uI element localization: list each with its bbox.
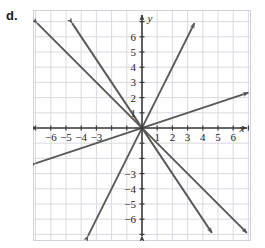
y-tick-label: −6 [124, 213, 136, 225]
x-tick-label: −3 [91, 131, 103, 143]
x-axis-label: x [239, 122, 245, 134]
x-tick-label: −4 [75, 131, 87, 143]
y-tick-label: −5 [124, 198, 136, 210]
y-tick-label: 5 [131, 46, 137, 58]
x-tick-label: −6 [45, 131, 57, 143]
x-tick-label: 1 [154, 131, 160, 143]
y-tick-label: 4 [131, 61, 137, 73]
x-tick-label: −5 [60, 131, 72, 143]
x-tick-label: 6 [230, 131, 236, 143]
coordinate-plane-svg: −6−5−4−3123456 654321−3−4−5−6 x y [33, 10, 251, 241]
x-tick-label: 3 [185, 131, 191, 143]
part-label: d. [6, 8, 18, 23]
x-tick-label: 5 [215, 131, 221, 143]
y-tick-label: 1 [131, 107, 137, 119]
x-tick-label: 4 [200, 131, 206, 143]
y-tick-label: 6 [131, 31, 137, 43]
x-tick-label: 2 [170, 131, 176, 143]
coordinate-plane: −6−5−4−3123456 654321−3−4−5−6 x y [33, 10, 251, 241]
y-axis-label: y [147, 12, 153, 24]
y-tick-label: 2 [131, 92, 137, 104]
y-tick-label: −3 [124, 168, 136, 180]
graph-figure: d. −6−5−4−3123456 654321−3−4−5−6 x [0, 0, 265, 248]
y-tick-label: −4 [124, 183, 136, 195]
y-tick-label: 3 [131, 76, 137, 88]
